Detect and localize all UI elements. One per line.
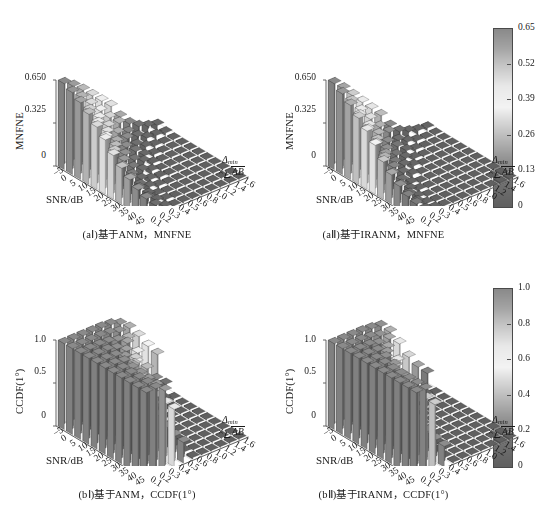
panel-bII: CCDF(1°) 0 0.5 1.0 SNR/dB −5051015202530… [274, 262, 493, 521]
z-axis-label-aI: ×AB [218, 166, 245, 178]
y-axis-label-aI: MNFNE [14, 112, 25, 150]
z-label-den: AB [501, 166, 515, 178]
caption-bII: (bⅡ)基于IRANM，CCDF(1°) [274, 486, 493, 501]
y-tick-2-aI: 0.650 [6, 72, 46, 82]
y-tick-0-bI: 0 [6, 410, 46, 420]
panel-bI: CCDF(1°) 0 0.5 1.0 SNR/dB −5051015202530… [0, 262, 274, 521]
z-label-num-sub: min [228, 158, 238, 165]
x-axis-label-bI: SNR/dB [46, 454, 83, 466]
x-axis-label-bII: SNR/dB [316, 454, 353, 466]
y-tick-1-bII: 0.5 [276, 366, 316, 376]
caption-bI: (bⅠ)基于ANM，CCDF(1°) [0, 486, 274, 501]
y-tick-1-bI: 0.5 [6, 366, 46, 376]
y-tick-2-bII: 1.0 [276, 334, 316, 344]
z-label-num-sub: min [498, 418, 508, 425]
y-tick-0-bII: 0 [276, 410, 316, 420]
y-axis-label-aII: MNFNE [284, 112, 295, 150]
z-axis-label-bI: ×AB [218, 426, 245, 438]
z-label-num-sub: min [498, 158, 508, 165]
figure-root: MNFNE 0 0.325 0.650 SNR/dB −505101520253… [0, 0, 548, 521]
y-tick-1-aII: 0.325 [276, 104, 316, 114]
panel-aII: MNFNE 0 0.325 0.650 SNR/dB −505101520253… [274, 0, 493, 260]
z-label-den: AB [501, 426, 515, 438]
z-label-num-sub: min [228, 418, 238, 425]
z-axis-label-num-aII: Δmin [492, 155, 508, 166]
x-axis-label-aII: SNR/dB [316, 193, 353, 205]
y-tick-2-bI: 1.0 [6, 334, 46, 344]
y-tick-0-aI: 0 [6, 150, 46, 160]
caption-aII: (aⅡ)基于IRANM，MNFNE [274, 226, 493, 241]
y-tick-2-aII: 0.650 [276, 72, 316, 82]
z-axis-label-num-bI: Δmin [222, 415, 238, 426]
z-axis-label-aII: ×AB [488, 166, 515, 178]
x-axis-label-aI: SNR/dB [46, 193, 83, 205]
z-label-den: AB [231, 426, 245, 438]
panel-aI: MNFNE 0 0.325 0.650 SNR/dB −505101520253… [0, 0, 274, 260]
y-tick-1-aI: 0.325 [6, 104, 46, 114]
z-axis-label-num-aI: Δmin [222, 155, 238, 166]
y-tick-0-aII: 0 [276, 150, 316, 160]
z-axis-label-bII: ×AB [488, 426, 515, 438]
z-label-den: AB [231, 166, 245, 178]
caption-aI: (aⅠ)基于ANM，MNFNE [0, 226, 274, 241]
z-axis-label-num-bII: Δmin [492, 415, 508, 426]
